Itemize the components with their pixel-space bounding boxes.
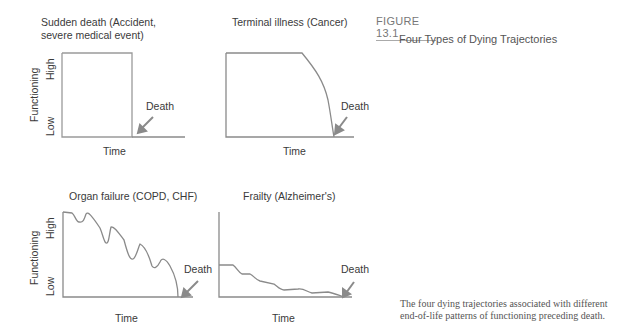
y-axis-label-functioning-bottom: Functioning	[28, 231, 40, 285]
terminal-illness-line	[226, 53, 334, 137]
death-label-3: Death	[184, 263, 212, 275]
x-axis-label-time-1: Time	[103, 145, 126, 157]
frailty-axes	[219, 212, 352, 297]
y-tick-high-top: High	[44, 58, 56, 80]
x-axis-label-time-3: Time	[115, 312, 138, 324]
y-tick-low-top: Low	[44, 117, 56, 136]
x-axis-label-time-4: Time	[272, 312, 295, 324]
death-label-2: Death	[341, 100, 369, 112]
trajectory-charts	[0, 0, 624, 336]
figure-caption: The four dying trajectories associated w…	[400, 298, 608, 322]
y-tick-low-bottom: Low	[44, 277, 56, 296]
y-tick-high-bottom: High	[44, 217, 56, 239]
organ-failure-line	[63, 212, 178, 297]
caption-line-1: The four dying trajectories associated w…	[400, 298, 608, 310]
y-axis-label-functioning-top: Functioning	[28, 68, 40, 122]
death-label-4: Death	[341, 263, 369, 275]
caption-line-2: end-of-life patterns of functioning prec…	[400, 310, 608, 322]
terminal-illness-axes	[226, 53, 354, 137]
death-label-1: Death	[146, 100, 174, 112]
sudden-death-line	[62, 53, 132, 137]
figure-title: Four Types of Dying Trajectories	[399, 33, 557, 45]
frailty-line	[219, 265, 344, 297]
x-axis-label-time-2: Time	[283, 145, 306, 157]
